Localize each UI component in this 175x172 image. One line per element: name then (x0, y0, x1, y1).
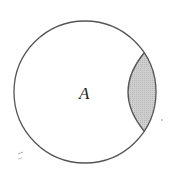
scan-artifact (161, 119, 163, 121)
set-diagram: A (0, 0, 175, 172)
set-a-label: A (78, 84, 90, 103)
shaded-region (128, 53, 175, 131)
scan-artifact (18, 152, 23, 154)
scan-artifact (18, 158, 22, 159)
